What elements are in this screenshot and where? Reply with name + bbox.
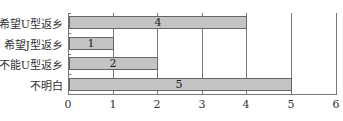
x-tick-label: 5 [283,98,299,111]
bar-value-label: 4 [151,16,165,29]
bar-value-label: 2 [106,57,120,70]
x-tick-label: 3 [194,98,210,111]
category-label: 不能U型返乡 [0,56,63,72]
category-label: 不明白 [30,77,63,93]
category-label: 希望U型返乡 [0,15,63,31]
x-tick-label: 2 [149,98,165,111]
y-tick [68,13,71,14]
x-tick-label: 1 [105,98,121,111]
x-axis [68,94,336,95]
gridline-6 [336,13,337,95]
x-tick-label: 0 [60,98,76,111]
category-label: 希望J型返乡 [4,36,63,52]
bar-value-label: 5 [172,78,186,91]
horizontal-bar-chart: 4 1 2 5 希望U型返乡 希望J型返乡 不能U型返乡 不明白 0 1 2 3… [0,0,343,121]
y-tick [68,74,71,75]
x-tick-label: 6 [328,98,343,111]
x-tick-label: 4 [238,98,254,111]
y-tick [68,33,71,34]
y-tick [68,54,71,55]
bar-value-label: 1 [84,37,98,50]
